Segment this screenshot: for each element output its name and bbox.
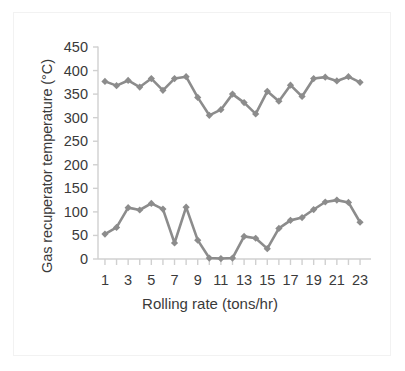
y-tick-label: 50 [46, 228, 88, 243]
data-point-marker [333, 197, 340, 204]
chart-container: Gas recuperator temperature (°C) 0501001… [13, 12, 391, 356]
y-tick-label: 300 [46, 111, 88, 126]
x-tick-label: 19 [306, 273, 322, 288]
x-tick-label: 5 [147, 273, 155, 288]
x-tick-label: 1 [101, 273, 109, 288]
data-point-marker [217, 255, 224, 262]
y-tick-label: 200 [46, 158, 88, 173]
series-line-lower [105, 200, 360, 258]
data-point-marker [183, 204, 190, 211]
y-tick-label: 450 [46, 40, 88, 55]
y-tick-label: 400 [46, 64, 88, 79]
x-tick-label: 15 [259, 273, 275, 288]
data-point-marker [333, 77, 340, 84]
data-point-marker [322, 74, 329, 81]
x-tick-label: 13 [236, 273, 252, 288]
y-tick-label: 350 [46, 87, 88, 102]
y-tick-label: 0 [46, 252, 88, 267]
x-tick-label: 17 [282, 273, 298, 288]
x-tick-label: 23 [352, 273, 368, 288]
y-tick-label: 100 [46, 205, 88, 220]
y-tick-label: 250 [46, 134, 88, 149]
x-tick-label: 11 [213, 273, 228, 288]
x-tick-label: 9 [194, 273, 202, 288]
x-axis-title: Rolling rate (tons/hr) [50, 295, 370, 312]
x-tick-label: 7 [170, 273, 178, 288]
y-tick-label: 150 [46, 181, 88, 196]
data-point-marker [101, 78, 108, 85]
x-tick-label: 21 [329, 273, 345, 288]
data-point-marker [171, 239, 178, 246]
x-tick-label: 3 [124, 273, 132, 288]
